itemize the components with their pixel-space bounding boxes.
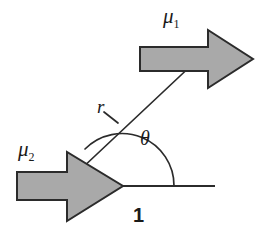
label-axis-number: 1 <box>133 205 144 225</box>
mu2-symbol: μ <box>18 137 29 161</box>
label-mu1: μ1 <box>163 6 180 30</box>
label-theta: θ <box>140 128 150 148</box>
mu1-arrow-shape <box>140 30 253 88</box>
mu2-subscript: 2 <box>29 150 35 164</box>
mu1-symbol: μ <box>163 4 174 28</box>
label-r: r <box>97 97 104 116</box>
mu1-subscript: 1 <box>174 17 180 31</box>
r-tick-mark <box>104 112 118 123</box>
label-mu2: μ2 <box>18 139 35 163</box>
diagram-canvas <box>0 0 257 237</box>
dipole-vector-diagram: μ1 μ2 r θ 1 <box>0 0 257 237</box>
